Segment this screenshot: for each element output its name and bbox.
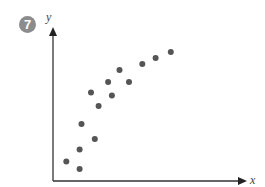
- data-point: [88, 90, 94, 96]
- data-point: [139, 61, 145, 67]
- data-points: [63, 49, 174, 172]
- data-point: [77, 166, 83, 172]
- data-point: [79, 121, 85, 127]
- data-point: [77, 147, 83, 153]
- x-axis-arrow-icon: [238, 177, 247, 185]
- y-axis-arrow-icon: [49, 27, 57, 36]
- data-point: [153, 55, 159, 61]
- data-point: [126, 79, 132, 85]
- data-point: [96, 103, 102, 109]
- data-point: [117, 67, 123, 73]
- scatter-figure: 7 y x: [0, 0, 265, 187]
- data-point: [92, 136, 98, 142]
- scatter-plot: [0, 0, 265, 187]
- data-point: [63, 159, 69, 165]
- data-point: [109, 93, 115, 99]
- data-point: [168, 49, 174, 55]
- data-point: [105, 79, 111, 85]
